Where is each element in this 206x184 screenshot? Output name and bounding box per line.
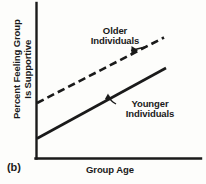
y-axis-label-line-2: Is Supportive [22,9,33,129]
younger-label-line-2: Individuals [118,109,182,119]
older-label-line-2: Individuals [84,36,146,46]
figure-panel-b: Percent Feeling Group Is Supportive Grou… [0,0,206,184]
series-label-younger-individuals: Younger Individuals [118,99,182,120]
y-axis-label-line-1: Percent Feeling Group [11,9,22,129]
series-label-older-individuals: Older Individuals [84,26,146,47]
x-axis-label: Group Age [86,165,134,175]
panel-label: (b) [7,162,21,174]
y-axis-label: Percent Feeling Group Is Supportive [11,9,33,129]
